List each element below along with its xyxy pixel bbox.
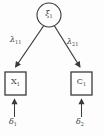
loading-path-left-arrow <box>16 26 44 67</box>
latent-variable-label: ξ1 <box>41 10 57 19</box>
sem-path-diagram: ξ1 λ11 λ21 X1 C1 δ1 δ2 <box>0 0 104 137</box>
loading-left-subscript: 11 <box>15 39 21 45</box>
loading-right-label: λ21 <box>67 38 78 47</box>
error-right-subscript: 2 <box>81 121 84 127</box>
diagram-canvas <box>0 0 104 137</box>
indicator-left-subscript: 1 <box>17 81 20 87</box>
indicator-right-label: C1 <box>71 78 92 87</box>
loading-left-label: λ11 <box>10 36 21 45</box>
indicator-right-subscript: 1 <box>83 81 86 87</box>
loading-right-subscript: 21 <box>72 41 78 47</box>
error-right-label: δ2 <box>76 118 84 127</box>
indicator-left-label: X1 <box>5 78 26 87</box>
error-left-subscript: 1 <box>14 121 17 127</box>
latent-subscript: 1 <box>50 13 53 19</box>
error-left-label: δ1 <box>9 118 17 127</box>
